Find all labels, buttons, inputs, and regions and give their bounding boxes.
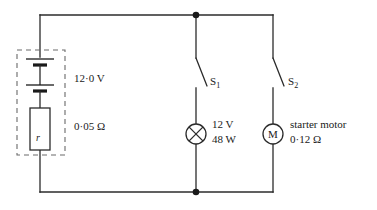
- battery-cell-2: [26, 85, 54, 91]
- internal-resistor-box: [30, 108, 50, 150]
- lamp-cross-circle-icon: [186, 124, 206, 144]
- internal-resistor-symbol-label: r: [36, 133, 40, 144]
- circuit-wires: [40, 15, 273, 192]
- motor-letter: M: [268, 128, 278, 140]
- switch-s1[interactable]: [196, 58, 207, 86]
- switch-s2-label-subscript: 2: [294, 81, 298, 90]
- lamp-power-label: 48 W: [212, 134, 236, 146]
- top-junction-dot: [193, 12, 200, 19]
- battery-cell-1: [26, 59, 54, 65]
- circuit-schematic-svg: M: [0, 0, 377, 210]
- battery-assembly: [17, 50, 65, 155]
- motor-circle-icon: M: [263, 124, 283, 144]
- motor-name-label: starter motor: [290, 119, 347, 131]
- switch-s2-blade[interactable]: [273, 58, 284, 86]
- switch-s2-label: S2: [288, 76, 298, 90]
- switch-s2[interactable]: [273, 58, 284, 86]
- switch-s1-blade[interactable]: [196, 58, 207, 86]
- circuit-diagram: M 12·0 V 0·05 Ω r S1 S2 12 V 48 W starte…: [0, 0, 377, 210]
- switch-s1-label-subscript: 1: [216, 81, 220, 90]
- bottom-junction-dot: [193, 189, 200, 196]
- motor-resistance-label: 0·12 Ω: [290, 134, 321, 146]
- lamp-voltage-label: 12 V: [212, 119, 234, 131]
- switch-s1-label: S1: [210, 76, 220, 90]
- battery-internal-resistance-label: 0·05 Ω: [74, 121, 105, 133]
- battery-emf-label: 12·0 V: [74, 73, 105, 85]
